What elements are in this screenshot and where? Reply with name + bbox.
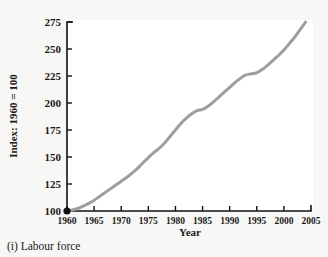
y-tick-label-250: 250 [45, 43, 62, 55]
figure-labour-force: 100125150175200225250275 196019651970197… [0, 0, 328, 257]
start-point-marker [63, 207, 70, 214]
y-tick-label-175: 175 [45, 124, 62, 136]
x-tick-label-1985: 1985 [193, 216, 212, 226]
figure-caption: (i) Labour force [7, 240, 80, 253]
x-tick-label-2000: 2000 [274, 216, 293, 226]
line-chart: 100125150175200225250275 196019651970197… [0, 0, 328, 257]
x-tick-label-1980: 1980 [166, 216, 185, 226]
y-tick-label-125: 125 [45, 178, 62, 190]
y-tick-label-150: 150 [45, 151, 62, 163]
y-axis-title: Index: 1960 = 100 [7, 74, 19, 158]
x-tick-label-1975: 1975 [139, 216, 158, 226]
x-tick-label-2005: 2005 [302, 216, 321, 226]
y-tick-label-225: 225 [45, 70, 62, 82]
x-tick-label-1970: 1970 [112, 216, 131, 226]
x-tick-label-1995: 1995 [247, 216, 266, 226]
x-tick-label-1990: 1990 [220, 216, 239, 226]
y-tick-label-200: 200 [45, 97, 62, 109]
x-tick-label-1965: 1965 [85, 216, 104, 226]
x-tick-label-1960: 1960 [58, 216, 77, 226]
x-axis-title: Year [179, 226, 201, 238]
y-tick-label-275: 275 [45, 16, 62, 28]
